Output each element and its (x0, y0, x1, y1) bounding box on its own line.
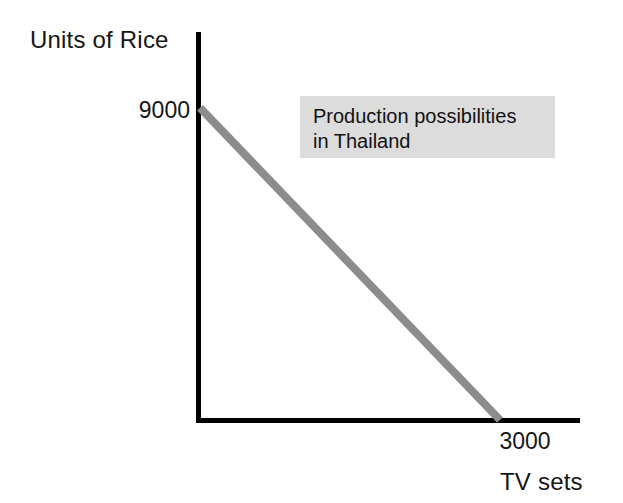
y-axis-line (196, 32, 201, 423)
y-axis-tick-label: 9000 (60, 97, 190, 124)
x-axis-title: TV sets (500, 468, 583, 496)
x-axis-line (196, 418, 580, 423)
annotation-box: Production possibilities in Thailand (300, 96, 555, 158)
annotation-line-1: Production possibilities (313, 104, 555, 129)
chart-canvas: Units of Rice 9000 3000 TV sets Producti… (0, 0, 623, 503)
annotation-line-2: in Thailand (313, 129, 555, 154)
y-axis-title: Units of Rice (30, 26, 169, 54)
x-axis-tick-label: 3000 (475, 428, 575, 455)
